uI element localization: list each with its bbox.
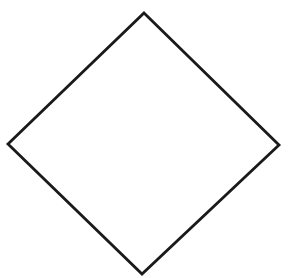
diagram-canvas (0, 0, 296, 278)
diamond-shape (8, 13, 279, 274)
diagram-svg (0, 0, 296, 278)
